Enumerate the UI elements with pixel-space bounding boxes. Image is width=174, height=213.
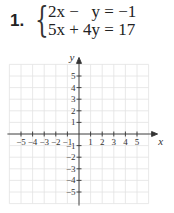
- svg-text:−3: −3: [39, 137, 49, 147]
- svg-text:5: 5: [71, 71, 76, 81]
- coordinate-grid: −5−4−3−2−11234554321−1−2−3−4−5xy: [0, 0, 174, 213]
- svg-text:−5: −5: [66, 187, 76, 197]
- svg-text:4: 4: [123, 137, 128, 147]
- svg-text:1: 1: [88, 137, 93, 147]
- svg-text:−4: −4: [28, 137, 38, 147]
- svg-text:3: 3: [71, 94, 76, 104]
- svg-text:1: 1: [71, 117, 76, 127]
- svg-text:−2: −2: [51, 137, 61, 147]
- svg-text:2: 2: [71, 106, 76, 116]
- svg-text:2: 2: [100, 137, 105, 147]
- svg-text:5: 5: [135, 137, 140, 147]
- svg-text:3: 3: [112, 137, 117, 147]
- svg-text:−5: −5: [16, 137, 26, 147]
- svg-text:x: x: [157, 135, 163, 147]
- svg-text:y: y: [69, 51, 75, 63]
- svg-text:4: 4: [71, 83, 76, 93]
- svg-text:−3: −3: [66, 164, 76, 174]
- svg-text:−1: −1: [66, 141, 76, 151]
- svg-text:−2: −2: [66, 152, 76, 162]
- svg-text:−4: −4: [66, 175, 76, 185]
